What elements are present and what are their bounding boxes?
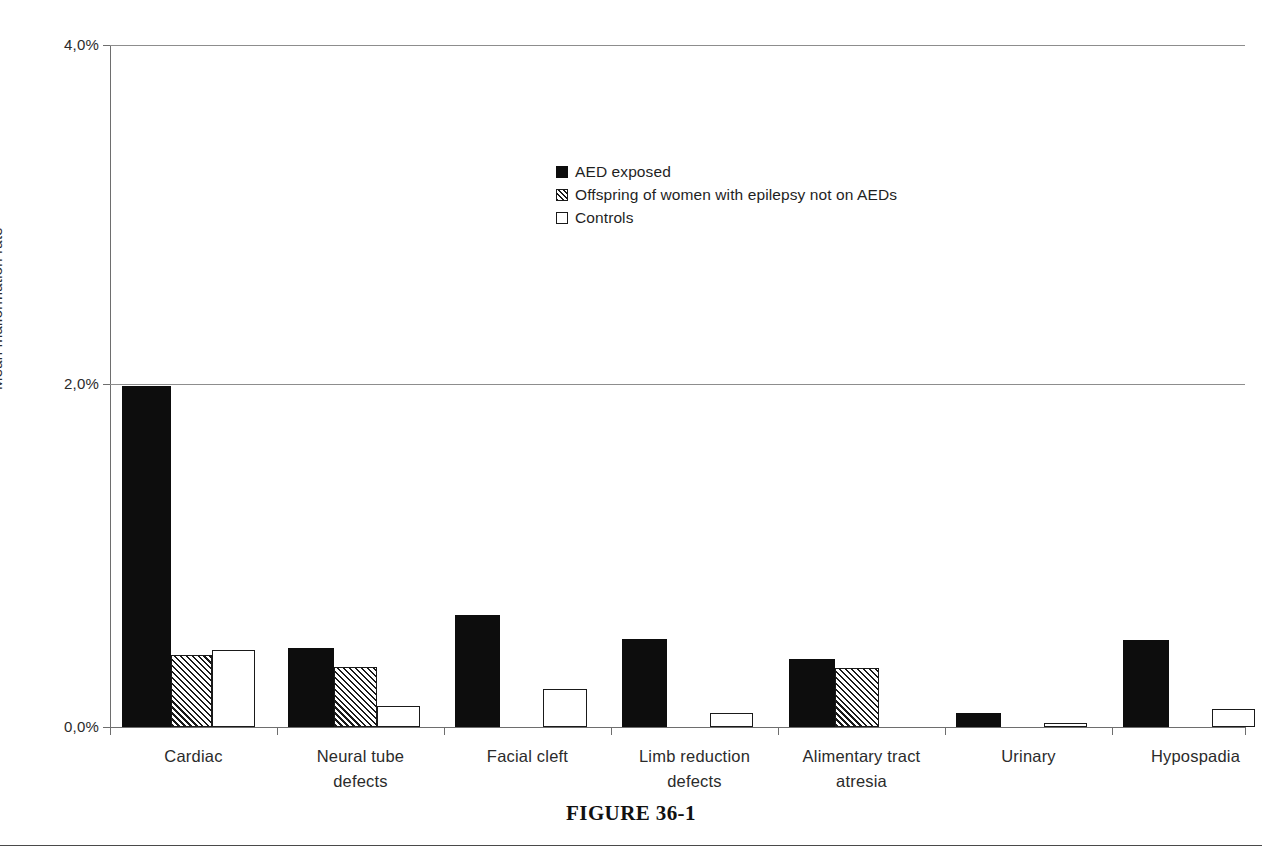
- x-category-line: Facial cleft: [444, 744, 611, 769]
- legend-label: Controls: [575, 209, 634, 227]
- x-category-line: Hypospadia: [1112, 744, 1262, 769]
- x-category-line: Limb reduction: [611, 744, 778, 769]
- y-tick-label-top: 4,0%: [44, 36, 99, 53]
- bar-neural-tube-controls: [377, 706, 420, 727]
- x-tick-2: [277, 727, 278, 735]
- x-category-line: atresia: [778, 769, 945, 794]
- x-tick-5: [778, 727, 779, 735]
- x-category-line: defects: [611, 769, 778, 794]
- bar-group-alimentary-tract-atresia: [789, 45, 941, 727]
- x-category-label-cardiac: Cardiac: [110, 744, 277, 769]
- bar-group-limb-reduction-defects: [622, 45, 774, 727]
- bar-cardiac-aed-exposed: [122, 386, 171, 727]
- y-tick-mark-mid: [103, 384, 110, 385]
- bar-cardiac-controls: [212, 650, 255, 727]
- y-tick-label-bottom: 0,0%: [44, 718, 99, 735]
- chart-legend: AED exposed Offspring of women with epil…: [556, 160, 897, 229]
- x-category-line: defects: [277, 769, 444, 794]
- x-category-label-neural-tube-defects: Neural tube defects: [277, 744, 444, 794]
- bar-neural-tube-offspring-no-aed: [334, 667, 377, 727]
- y-tick-mark-top: [103, 45, 110, 46]
- bar-group-facial-cleft: [455, 45, 607, 727]
- x-tick-1: [110, 727, 111, 735]
- legend-label: AED exposed: [575, 163, 671, 181]
- bar-alimentary-offspring-no-aed: [835, 668, 879, 727]
- bar-cardiac-offspring-no-aed: [171, 655, 212, 727]
- x-category-line: Alimentary tract: [778, 744, 945, 769]
- bar-limb-reduction-aed-exposed: [622, 639, 667, 727]
- figure-container: 4,0% 2,0% 0,0% Mean malformation rate: [0, 0, 1262, 861]
- x-tick-6: [945, 727, 946, 735]
- axis-baseline: [110, 727, 1245, 728]
- legend-swatch-hatched-icon: [556, 189, 568, 201]
- bar-urinary-aed-exposed: [956, 713, 1001, 727]
- x-category-label-urinary: Urinary: [945, 744, 1112, 769]
- x-category-line: Neural tube: [277, 744, 444, 769]
- x-category-label-facial-cleft: Facial cleft: [444, 744, 611, 769]
- bar-hypospadia-aed-exposed: [1123, 640, 1169, 727]
- bar-facial-cleft-aed-exposed: [455, 615, 500, 727]
- plot-area: [110, 45, 1245, 727]
- x-tick-3: [444, 727, 445, 735]
- x-category-label-alimentary-tract-atresia: Alimentary tract atresia: [778, 744, 945, 794]
- page-bottom-rule: [0, 845, 1262, 846]
- y-tick-label-mid: 2,0%: [44, 375, 99, 392]
- x-category-label-hypospadia: Hypospadia: [1112, 744, 1262, 769]
- x-tick-8: [1245, 727, 1246, 735]
- bar-group-hypospadia: [1123, 45, 1262, 727]
- y-axis-title: Mean malformation rate: [0, 227, 5, 390]
- legend-label: Offspring of women with epilepsy not on …: [575, 186, 897, 204]
- bar-alimentary-aed-exposed: [789, 659, 835, 727]
- x-tick-7: [1112, 727, 1113, 735]
- legend-entry-offspring-no-aed: Offspring of women with epilepsy not on …: [556, 183, 897, 206]
- bar-neural-tube-aed-exposed: [288, 648, 334, 727]
- x-category-label-limb-reduction-defects: Limb reduction defects: [611, 744, 778, 794]
- x-tick-4: [611, 727, 612, 735]
- figure-caption: FIGURE 36-1: [0, 801, 1262, 826]
- x-category-line: Urinary: [945, 744, 1112, 769]
- bar-limb-reduction-controls: [710, 713, 753, 727]
- y-tick-mark-bottom: [103, 727, 110, 728]
- bar-group-urinary: [956, 45, 1108, 727]
- legend-swatch-solid-icon: [556, 166, 568, 178]
- legend-entry-controls: Controls: [556, 206, 897, 229]
- legend-entry-aed-exposed: AED exposed: [556, 160, 897, 183]
- bar-group-neural-tube-defects: [288, 45, 440, 727]
- bar-hypospadia-controls: [1212, 709, 1255, 727]
- bar-facial-cleft-controls: [543, 689, 587, 727]
- x-category-line: Cardiac: [110, 744, 277, 769]
- bar-urinary-controls: [1044, 723, 1087, 727]
- legend-swatch-open-icon: [556, 212, 568, 224]
- bar-group-cardiac: [122, 45, 274, 727]
